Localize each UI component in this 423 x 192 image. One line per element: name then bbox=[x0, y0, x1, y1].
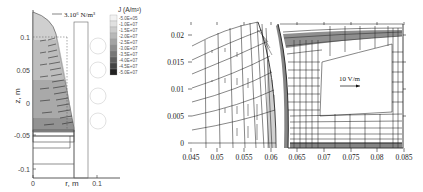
y-tick-label: 0 bbox=[180, 139, 184, 148]
x-tick-label: 0.045 bbox=[183, 153, 200, 162]
crucible-structure bbox=[33, 130, 74, 178]
y-axis-label: z, m bbox=[13, 88, 22, 103]
x-tick-label: 0.06 bbox=[264, 153, 277, 162]
field-scale-label: 10 V/m bbox=[339, 75, 361, 83]
x-tick-label: 0.075 bbox=[343, 153, 360, 162]
x-axis-label: r, m bbox=[65, 179, 79, 188]
legend-entry: -1.5E+07 bbox=[119, 28, 138, 33]
right-panel: 0.045 0.05 0.055 0.06 0.065 0.07 0.075 0… bbox=[167, 22, 413, 162]
y-tick-label: 0.02 bbox=[171, 31, 184, 40]
y-tick-label: -0.1 bbox=[18, 166, 30, 173]
y-tick-label: 0 bbox=[26, 100, 30, 107]
x-tick-label: 0.05 bbox=[210, 153, 223, 162]
legend-entry: -3.5E+07 bbox=[119, 52, 138, 57]
y-tick-label: 0.05 bbox=[16, 67, 30, 74]
legend-entry: -2.0E+07 bbox=[119, 34, 138, 39]
y-tick-label: 0.1 bbox=[20, 34, 30, 41]
x-tick-label: 0.065 bbox=[289, 153, 306, 162]
legend-title: J (A/m²) bbox=[118, 6, 141, 14]
legend-entry: -3.0E+07 bbox=[119, 46, 138, 51]
force-scale-label: 3.10⁶ N/m³ bbox=[64, 11, 95, 19]
y-tick-label: 0.01 bbox=[171, 85, 184, 94]
inductor-column bbox=[74, 22, 88, 178]
legend-entry: -2.5E+07 bbox=[119, 40, 138, 45]
legend-entry: -5.0E+07 bbox=[119, 70, 138, 75]
x-tick-label: 0.07 bbox=[317, 153, 330, 162]
x-tick-label: 0 bbox=[31, 180, 35, 187]
x-tick-label: 0.08 bbox=[370, 153, 383, 162]
legend-entry: -1.0E+07 bbox=[119, 22, 138, 27]
right-x-tick-labels: 0.045 0.05 0.055 0.06 0.065 0.07 0.075 0… bbox=[183, 153, 413, 162]
y-tick-label: 0.015 bbox=[167, 58, 184, 67]
left-panel: 0.1 0.05 0 -0.05 -0.1 0 0.1 r, m z, m bbox=[13, 10, 120, 188]
y-tick-label: 0.005 bbox=[167, 112, 184, 121]
x-tick-label: 0.085 bbox=[396, 153, 413, 162]
legend-entry: -4.5E+07 bbox=[119, 64, 138, 69]
dense-mesh-band bbox=[290, 143, 402, 148]
dense-mesh-band bbox=[283, 30, 402, 48]
figure: 0.1 0.05 0 -0.05 -0.1 0 0.1 r, m z, m bbox=[0, 0, 423, 192]
right-y-tick-labels: 0.02 0.015 0.01 0.005 0 bbox=[167, 31, 184, 148]
melt-mesh bbox=[192, 22, 276, 148]
legend-entry: -5.0E+05 bbox=[119, 16, 138, 21]
legend-entry: -4.0E+07 bbox=[119, 58, 138, 63]
coil-turns bbox=[90, 38, 106, 129]
j-legend: J (A/m²) -5.0E+05 -1.0E+07 -1.5E+07 -2.0… bbox=[110, 6, 141, 75]
y-tick-label: -0.05 bbox=[14, 132, 30, 139]
x-tick-label: 0.1 bbox=[92, 180, 102, 187]
x-tick-label: 0.055 bbox=[236, 153, 253, 162]
